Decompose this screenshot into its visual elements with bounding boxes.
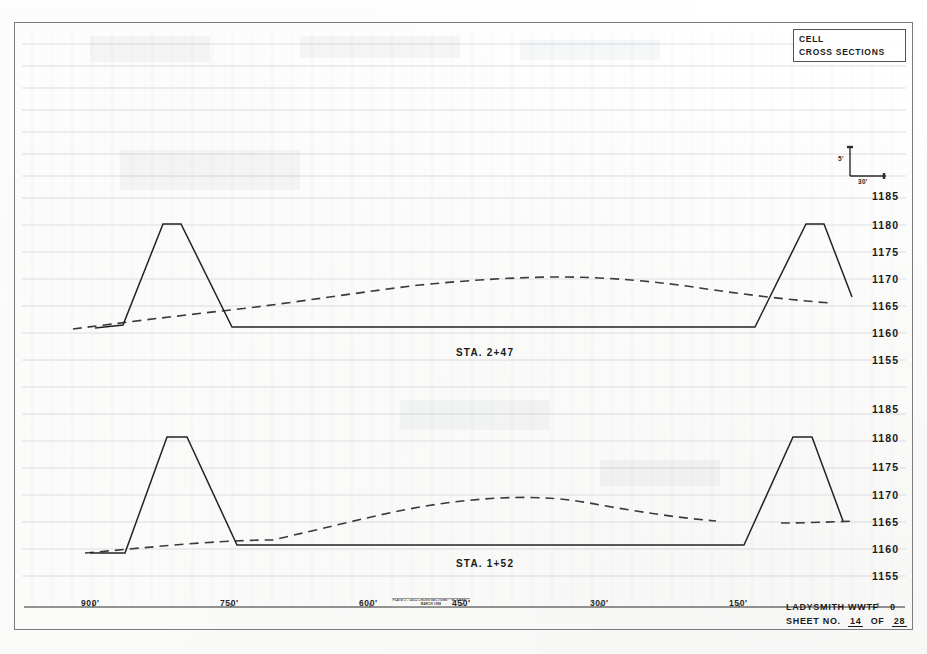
title-block: CELL CROSS SECTIONS: [793, 29, 906, 62]
elev-label-lower-1175: 1175: [872, 461, 899, 473]
elev-label-upper-1175: 1175: [872, 246, 899, 258]
drawing-border: [14, 22, 913, 630]
dist-label-150: 150': [729, 598, 748, 608]
station-label-lower: STA. 1+52: [456, 558, 514, 569]
project-name-line: LADYSMITH WWTF 0: [786, 600, 912, 614]
sheet-number-line: SHEET NO. 14 OF 28: [786, 614, 912, 628]
station-zero-mark: 0: [890, 602, 896, 612]
title-block-line-2: CROSS SECTIONS: [799, 46, 905, 59]
elev-label-upper-1185: 1185: [872, 190, 899, 202]
scale-horizontal-label: 30': [858, 178, 868, 185]
elev-label-lower-1170: 1170: [872, 489, 899, 501]
drawing-sheet: CELL CROSS SECTIONS 5' 30' 1185 1180 117…: [0, 0, 927, 654]
elev-label-upper-1160: 1160: [872, 327, 899, 339]
sheet-total-value: 28: [892, 616, 907, 627]
elev-label-lower-1185: 1185: [872, 403, 899, 415]
station-label-upper: STA. 2+47: [456, 347, 514, 358]
elev-label-lower-1180: 1180: [872, 432, 899, 444]
project-name: LADYSMITH WWTF: [786, 602, 879, 612]
sheet-number-value: 14: [848, 616, 863, 627]
title-block-line-1: CELL: [799, 33, 905, 46]
dist-label-750: 750': [220, 598, 239, 608]
sheet-footer-block: LADYSMITH WWTF 0 SHEET NO. 14 OF 28: [786, 600, 912, 628]
dist-label-600: 600': [359, 598, 378, 608]
elev-label-lower-1160: 1160: [872, 543, 899, 555]
sheet-number-prefix: SHEET NO.: [786, 616, 841, 626]
elev-label-lower-1165: 1165: [872, 516, 899, 528]
scale-vertical-label: 5': [838, 155, 844, 162]
dist-label-300: 300': [590, 598, 609, 608]
elev-label-upper-1180: 1180: [872, 219, 899, 231]
elev-label-lower-1155: 1155: [872, 570, 899, 582]
elev-label-upper-1165: 1165: [872, 300, 899, 312]
plate-note: PLATE 3 - CELL CROSS SECTIONS ·· W. SWAN…: [392, 598, 470, 607]
dist-label-900: 900': [81, 598, 100, 608]
elev-label-upper-1170: 1170: [872, 273, 899, 285]
sheet-of-label: OF: [871, 616, 885, 626]
elev-label-upper-1155: 1155: [872, 354, 899, 366]
